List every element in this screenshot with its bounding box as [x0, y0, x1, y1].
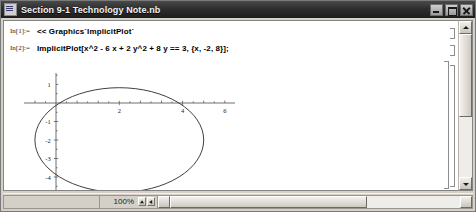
cell-code[interactable]: << Graphics`ImplicitPlot` — [37, 27, 134, 36]
cell-group-bracket[interactable] — [444, 61, 449, 189]
vertical-scrollbar[interactable] — [458, 20, 473, 191]
plot-axes — [24, 73, 235, 191]
status-bar: 100% — [3, 193, 473, 209]
zoom-level-label: 100% — [114, 197, 134, 206]
cell-prompt: In[1]:= — [10, 27, 30, 35]
input-cell-2[interactable]: In[2]:= ImplicitPlot[x^2 - 6 x + 2 y^2 +… — [4, 44, 458, 57]
minimize-icon[interactable] — [430, 4, 443, 16]
graphics-cell-bracket[interactable] — [450, 65, 455, 187]
x-tick-label: 4 — [181, 107, 185, 114]
y-tick-label: 1 — [47, 81, 50, 88]
maximize-icon[interactable] — [445, 4, 458, 16]
plot-svg: 2 4 6 1 -1 -2 -3 -4 -5 — [22, 71, 237, 191]
horizontal-scrollbar[interactable] — [157, 195, 473, 209]
vertical-scroll-thumb[interactable] — [459, 34, 472, 117]
y-tick-label: -1 — [45, 118, 50, 125]
implicit-plot-graphic[interactable]: 2 4 6 1 -1 -2 -3 -4 -5 — [22, 71, 237, 191]
window-title: Section 9-1 Technology Note.nb — [21, 5, 430, 15]
horizontal-scroll-track[interactable] — [170, 196, 460, 208]
arrow-up-icon[interactable] — [459, 21, 472, 34]
y-tick-label: -3 — [45, 155, 50, 162]
status-message-area — [3, 195, 99, 209]
vertical-scroll-track[interactable] — [459, 34, 472, 177]
cell-code[interactable]: ImplicitPlot[x^2 - 6 x + 2 y^2 + 8 y == … — [37, 44, 229, 53]
window-controls — [430, 4, 473, 16]
input-cell-1[interactable]: In[1]:= << Graphics`ImplicitPlot` — [4, 27, 458, 40]
cell-bracket[interactable] — [450, 28, 455, 39]
caret-up-icon[interactable] — [138, 197, 146, 206]
notebook-icon — [4, 3, 17, 16]
cell-prompt: In[2]:= — [10, 44, 30, 52]
notebook-window: Section 9-1 Technology Note.nb In[1]:= <… — [0, 0, 476, 212]
x-tick-label: 2 — [118, 107, 121, 114]
horizontal-scroll-thumb[interactable] — [170, 196, 367, 208]
y-tick-label: -2 — [45, 137, 50, 144]
arrow-left-icon[interactable] — [158, 196, 170, 208]
document-row: In[1]:= << Graphics`ImplicitPlot` In[2]:… — [3, 20, 473, 191]
arrow-down-icon[interactable] — [459, 177, 472, 190]
arrow-right-icon[interactable] — [460, 196, 472, 208]
y-tick-label: -4 — [45, 174, 51, 181]
caret-left-icon[interactable] — [147, 197, 155, 206]
title-bar[interactable]: Section 9-1 Technology Note.nb — [1, 1, 475, 18]
x-tick-label: 6 — [223, 107, 227, 114]
zoom-control[interactable]: 100% — [99, 195, 157, 209]
client-area: In[1]:= << Graphics`ImplicitPlot` In[2]:… — [1, 18, 475, 211]
cell-bracket[interactable] — [450, 45, 455, 56]
notebook-canvas[interactable]: In[1]:= << Graphics`ImplicitPlot` In[2]:… — [3, 20, 458, 191]
tick-labels: 2 4 6 1 -1 -2 -3 -4 -5 — [45, 81, 227, 191]
close-icon[interactable] — [460, 4, 473, 16]
